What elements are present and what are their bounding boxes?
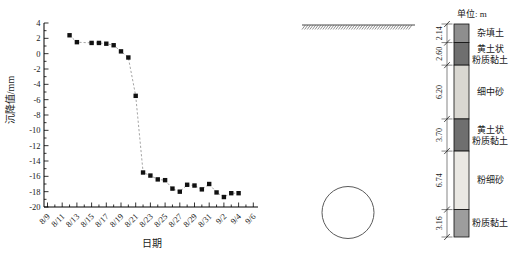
y-tick-label: -10 <box>29 125 40 135</box>
settlement-chart: 420-2-4-6-8-10-12-14-16-18-20 8/98/118/1… <box>4 18 258 249</box>
soil-layer <box>454 43 469 66</box>
data-point <box>134 94 138 98</box>
layer-thickness-label: 6.74 <box>436 173 445 187</box>
x-axis-ticks: 8/98/118/138/158/178/198/218/238/258/278… <box>37 203 258 230</box>
data-point <box>141 170 145 174</box>
data-point <box>200 187 204 191</box>
x-tick-label: 8/11 <box>49 211 67 229</box>
settlement-and-profile-figure: 420-2-4-6-8-10-12-14-16-18-20 8/98/118/1… <box>0 0 524 254</box>
data-point <box>111 43 115 47</box>
y-tick-label: -6 <box>33 95 40 105</box>
data-point <box>185 183 189 187</box>
data-point <box>178 189 182 193</box>
y-tick-label: -12 <box>29 141 40 151</box>
data-point <box>126 55 130 59</box>
layer-thickness-label: 2.60 <box>436 47 445 61</box>
layer-name-label: 细中砂 <box>477 86 504 97</box>
y-tick-label: 2 <box>36 33 40 43</box>
x-tick-label: 8/29 <box>181 211 199 229</box>
x-tick-label: 9/6 <box>243 211 258 226</box>
geological-profile: 单位: m 2.142.606.203.706.743.16 杂填土黄土状粉质黏… <box>302 8 508 240</box>
x-tick-label: 8/21 <box>122 211 140 229</box>
data-point <box>104 42 108 46</box>
data-point <box>192 183 196 187</box>
y-axis-label: 沉降值/mm <box>4 76 16 125</box>
geological-column <box>454 24 469 237</box>
data-point <box>222 195 226 199</box>
soil-layer <box>454 24 469 43</box>
x-tick-label: 9/4 <box>228 211 243 226</box>
soil-layer <box>454 65 469 119</box>
x-tick-label: 8/25 <box>152 211 170 229</box>
ground-surface-hatch <box>302 25 415 30</box>
layer-thickness-label: 3.70 <box>436 128 445 142</box>
chart-axes <box>44 23 258 207</box>
x-axis-label: 日期 <box>142 238 162 249</box>
layer-name-label: 粉质黏土 <box>472 54 508 65</box>
layer-name-label: 杂填土 <box>477 27 504 38</box>
layer-name-label: 粉质黏土 <box>472 217 508 228</box>
x-tick-label: 8/9 <box>37 211 52 226</box>
axis-lines <box>44 23 258 207</box>
y-tick-label: -2 <box>33 64 40 74</box>
unit-label: 单位: m <box>457 8 487 19</box>
data-point <box>170 186 174 190</box>
x-tick-label: 8/13 <box>64 211 82 229</box>
data-point <box>97 41 101 45</box>
y-tick-label: -18 <box>29 187 40 197</box>
data-point <box>148 173 152 177</box>
layer-name-label: 粉质黏土 <box>472 135 508 146</box>
y-tick-label: 0 <box>36 49 40 59</box>
data-point <box>236 191 240 195</box>
data-point <box>214 190 218 194</box>
data-point <box>89 41 93 45</box>
layer-name-label: 黄土状 <box>477 124 504 135</box>
y-tick-label: -8 <box>33 110 40 120</box>
data-point <box>207 182 211 186</box>
layer-thickness-label: 3.16 <box>436 216 445 230</box>
y-tick-label: -4 <box>33 79 41 89</box>
x-tick-label: 8/15 <box>78 211 96 229</box>
y-tick-label: -14 <box>29 156 41 166</box>
y-tick-label: -16 <box>29 171 40 181</box>
y-axis-ticks: 420-2-4-6-8-10-12-14-16-18-20 <box>29 18 48 212</box>
y-tick-label: 4 <box>36 18 41 28</box>
settlement-series <box>67 33 240 199</box>
tunnel-circle <box>322 187 374 239</box>
dimension-rail: 2.142.606.203.706.743.16 <box>436 21 453 240</box>
soil-layer <box>454 119 469 151</box>
data-point <box>163 178 167 182</box>
layer-name-labels: 杂填土黄土状粉质黏土细中砂黄土状粉质黏土粉细砂粉质黏土 <box>472 27 508 228</box>
layer-name-label: 黄土状 <box>477 43 504 54</box>
x-tick-label: 9/2 <box>214 211 229 226</box>
layer-thickness-label: 6.20 <box>436 85 445 99</box>
data-point <box>119 49 123 53</box>
x-tick-label: 8/23 <box>137 211 155 229</box>
series-line <box>70 35 239 197</box>
layer-name-label: 粉细砂 <box>477 174 504 185</box>
data-point <box>229 191 233 195</box>
soil-layer <box>454 210 469 237</box>
soil-layer <box>454 151 469 210</box>
x-tick-label: 8/17 <box>93 211 111 229</box>
data-point <box>75 40 79 44</box>
layer-thickness-label: 2.14 <box>436 26 445 40</box>
data-point <box>67 33 71 37</box>
y-tick-label: -20 <box>29 202 40 212</box>
data-point <box>156 177 160 181</box>
x-tick-label: 8/27 <box>166 211 184 229</box>
figure-canvas: 420-2-4-6-8-10-12-14-16-18-20 8/98/118/1… <box>0 0 524 254</box>
x-tick-label: 8/19 <box>108 211 126 229</box>
x-tick-label: 8/31 <box>196 211 214 229</box>
